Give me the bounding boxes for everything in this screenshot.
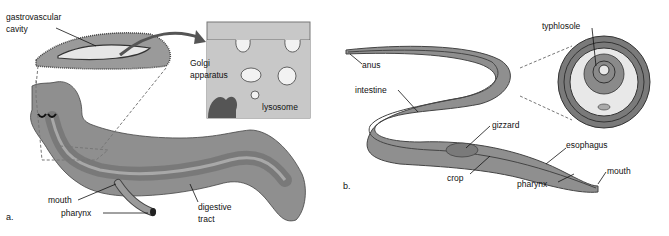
- label-crop: crop: [447, 173, 464, 183]
- label-intestine: intestine: [355, 85, 387, 95]
- panel-label-b: b.: [343, 181, 351, 191]
- label-golgi-1: Golgi: [190, 58, 210, 68]
- label-mouth-b: mouth: [607, 166, 631, 176]
- cell-inset: Golgi apparatus lysosome: [190, 22, 310, 118]
- label-pharynx-b: pharynx: [517, 179, 548, 189]
- digestive-systems-diagram: Golgi apparatus lysosome gastrovascular …: [0, 0, 669, 236]
- label-pharynx-a: pharynx: [61, 208, 92, 218]
- label-gastrovascular-2: cavity: [6, 24, 28, 34]
- label-digestive-2: tract: [198, 214, 215, 224]
- label-mouth-a: mouth: [48, 195, 72, 205]
- earthworm-figure: typhlosole anus intestine gizzard esopha…: [343, 21, 650, 192]
- label-typhlosole: typhlosole: [542, 21, 581, 31]
- panel-label-a: a.: [6, 212, 14, 222]
- label-anus: anus: [362, 60, 380, 70]
- gizzard-shape: [446, 143, 478, 157]
- planarian-figure: Golgi apparatus lysosome gastrovascular …: [6, 12, 310, 224]
- label-digestive-1: digestive: [198, 202, 232, 212]
- label-gastrovascular-1: gastrovascular: [6, 12, 61, 22]
- label-gizzard: gizzard: [492, 120, 520, 130]
- earthworm-cross-section: [558, 36, 650, 128]
- label-lysosome: lysosome: [262, 102, 298, 112]
- label-golgi-2: apparatus: [190, 70, 228, 80]
- label-esophagus: esophagus: [566, 140, 608, 150]
